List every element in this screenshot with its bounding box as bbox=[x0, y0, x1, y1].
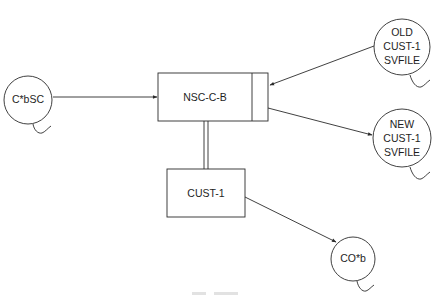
output-file-label: CO*b bbox=[340, 252, 366, 264]
arrow-sub-to-output bbox=[245, 197, 336, 242]
process-label-main: NSC-C-B bbox=[183, 91, 227, 103]
new-file-svfile[interactable]: NEW CUST-1 SVFILE bbox=[373, 109, 431, 179]
file-tail-icon bbox=[357, 281, 374, 291]
dataflow-diagram: C*bSC NSC-C-B OLD CUST-1 SVFILE NEW CUST… bbox=[0, 0, 447, 299]
old-file-line3: SVFILE bbox=[384, 54, 420, 66]
caption-fragment bbox=[192, 292, 206, 295]
new-file-line3: SVFILE bbox=[384, 146, 420, 158]
new-file-line1: NEW bbox=[390, 118, 415, 130]
file-tail-icon bbox=[33, 124, 51, 133]
input-file-cbsc[interactable]: C*bSC bbox=[4, 76, 52, 133]
process-box-cust-1[interactable]: CUST-1 bbox=[167, 169, 245, 217]
arrow-old-file-to-main bbox=[270, 46, 374, 85]
input-file-label: C*bSC bbox=[12, 93, 45, 105]
double-line-main-to-sub bbox=[204, 121, 208, 169]
output-file-cob[interactable]: CO*b bbox=[331, 237, 375, 291]
new-file-line2: CUST-1 bbox=[383, 132, 421, 144]
caption-fragment bbox=[214, 292, 238, 295]
arrow-main-to-new-file bbox=[268, 108, 372, 135]
old-file-line1: OLD bbox=[391, 26, 413, 38]
old-file-svfile[interactable]: OLD CUST-1 SVFILE bbox=[374, 19, 430, 87]
process-box-nsc-c-b[interactable]: NSC-C-B bbox=[158, 73, 268, 121]
process-label-sub: CUST-1 bbox=[187, 187, 225, 199]
file-tail-icon bbox=[410, 75, 430, 87]
file-tail-icon bbox=[410, 167, 430, 179]
old-file-line2: CUST-1 bbox=[383, 40, 421, 52]
